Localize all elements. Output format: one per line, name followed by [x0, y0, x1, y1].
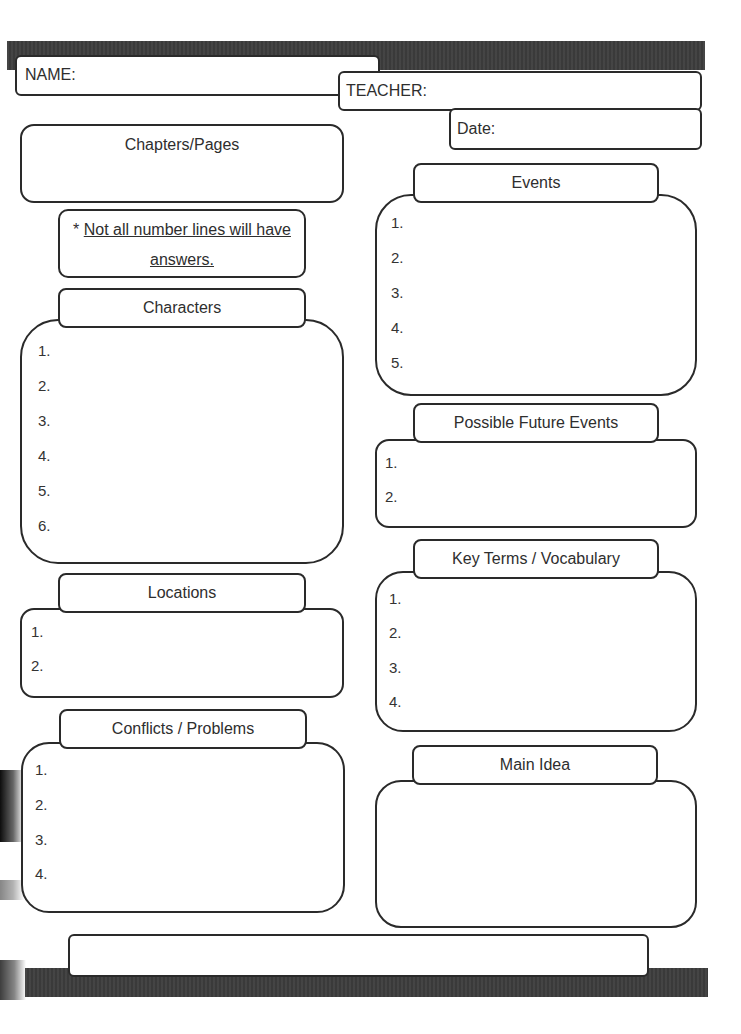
- future-events-header: Possible Future Events: [413, 403, 659, 443]
- events-header: Events: [413, 163, 659, 203]
- key-terms-item-3: 3.: [389, 659, 402, 676]
- characters-item-4: 4.: [38, 447, 51, 464]
- scan-shadow: [0, 960, 26, 1000]
- date-label: Date:: [457, 120, 495, 138]
- teacher-label: TEACHER:: [346, 82, 427, 100]
- name-label: NAME:: [25, 66, 76, 84]
- future-events-item-1: 1.: [385, 454, 398, 471]
- key-terms-header: Key Terms / Vocabulary: [413, 539, 659, 579]
- key-terms-item-2: 2.: [389, 624, 402, 641]
- name-field[interactable]: NAME:: [15, 55, 380, 96]
- characters-item-3: 3.: [38, 412, 51, 429]
- conflicts-item-2: 2.: [35, 796, 48, 813]
- events-item-2: 2.: [391, 249, 404, 266]
- future-events-item-2: 2.: [385, 488, 398, 505]
- main-idea-header: Main Idea: [412, 745, 658, 785]
- note-line-1: * Not all number lines will have: [60, 215, 304, 245]
- conflicts-box[interactable]: 1. 2. 3. 4.: [21, 742, 345, 913]
- key-terms-item-1: 1.: [389, 590, 402, 607]
- note-prefix: *: [73, 221, 84, 238]
- note-line-2: answers.: [60, 245, 304, 275]
- characters-item-5: 5.: [38, 482, 51, 499]
- events-item-3: 3.: [391, 284, 404, 301]
- bottom-blank-box[interactable]: [68, 934, 649, 977]
- characters-header: Characters: [58, 288, 306, 328]
- events-item-4: 4.: [391, 319, 404, 336]
- locations-item-2: 2.: [31, 657, 44, 674]
- key-terms-box[interactable]: 1. 2. 3. 4.: [375, 571, 697, 732]
- characters-item-6: 6.: [38, 517, 51, 534]
- chapters-pages-box[interactable]: Chapters/Pages: [20, 124, 344, 203]
- conflicts-item-3: 3.: [35, 831, 48, 848]
- characters-item-1: 1.: [38, 342, 51, 359]
- conflicts-header: Conflicts / Problems: [59, 709, 307, 749]
- events-box[interactable]: 1. 2. 3. 4. 5.: [375, 194, 697, 396]
- characters-box[interactable]: 1. 2. 3. 4. 5. 6.: [20, 319, 344, 564]
- events-item-1: 1.: [391, 214, 404, 231]
- conflicts-item-1: 1.: [35, 761, 48, 778]
- locations-header: Locations: [58, 573, 306, 613]
- note-text: Not all number lines will have: [84, 221, 291, 238]
- teacher-field[interactable]: TEACHER:: [338, 71, 702, 111]
- conflicts-item-4: 4.: [35, 865, 48, 882]
- main-idea-box[interactable]: [375, 780, 697, 928]
- date-field[interactable]: Date:: [449, 108, 702, 150]
- locations-box[interactable]: 1. 2.: [20, 608, 344, 698]
- future-events-box[interactable]: 1. 2.: [375, 439, 697, 528]
- key-terms-item-4: 4.: [389, 693, 402, 710]
- characters-item-2: 2.: [38, 377, 51, 394]
- events-item-5: 5.: [391, 354, 404, 371]
- chapters-pages-title: Chapters/Pages: [22, 136, 342, 154]
- locations-item-1: 1.: [31, 623, 44, 640]
- note-box: * Not all number lines will have answers…: [58, 209, 306, 278]
